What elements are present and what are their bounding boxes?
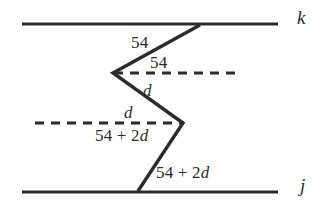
angle-label-mid-lower: d xyxy=(124,104,133,121)
angle-label-bottom-upper-prefix: 54 + 2 xyxy=(95,126,140,145)
angle-label-top-lower: 54 xyxy=(150,54,167,71)
angle-label-bottom-lower-variable: d xyxy=(201,163,210,182)
diagram-canvas xyxy=(0,0,335,217)
angle-label-mid-upper: d xyxy=(143,82,152,99)
angle-label-bottom-upper-variable: d xyxy=(140,126,149,145)
line-label-k: k xyxy=(297,8,305,27)
angle-label-bottom-lower: 54 + 2d xyxy=(156,164,210,181)
geometry-diagram: 54 54 d d 54 + 2d 54 + 2d k j xyxy=(0,0,335,217)
angle-label-bottom-lower-prefix: 54 + 2 xyxy=(156,163,201,182)
angle-label-bottom-upper: 54 + 2d xyxy=(95,127,149,144)
angle-label-top-upper: 54 xyxy=(131,34,148,51)
line-label-j: j xyxy=(300,176,305,195)
